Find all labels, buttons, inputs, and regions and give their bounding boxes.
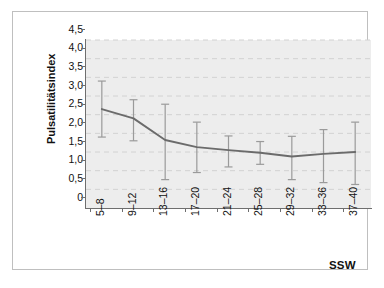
x-tick-mark xyxy=(122,208,123,212)
y-tick-label: 0 xyxy=(57,192,83,203)
x-tick-mark xyxy=(217,208,218,212)
error-bar xyxy=(288,136,296,179)
error-bar xyxy=(351,122,359,184)
x-tick-label: 37–40 xyxy=(348,187,359,216)
y-tick-label: 4,5 xyxy=(57,24,83,35)
x-tick-mark xyxy=(153,208,154,212)
y-tick-label: 3,0 xyxy=(57,80,83,91)
x-tick-label: 5–8 xyxy=(95,198,106,216)
error-bar xyxy=(225,136,233,167)
x-tick-label: 25–28 xyxy=(253,187,264,216)
y-tick-mark xyxy=(81,66,85,67)
y-tick-label: 3,5 xyxy=(57,61,83,72)
series-line xyxy=(102,109,355,156)
figure-canvas: 00,51,01,52,02,53,03,54,04,5 5–89–1213–1… xyxy=(0,0,384,288)
x-tick-mark xyxy=(343,208,344,212)
x-tick-mark xyxy=(248,208,249,212)
x-tick-label: 9–12 xyxy=(127,193,138,216)
error-bar xyxy=(320,130,328,183)
plot-panel xyxy=(86,40,371,208)
y-tick-mark xyxy=(81,160,85,161)
y-tick-mark xyxy=(81,48,85,49)
y-tick-label: 2,0 xyxy=(57,117,83,128)
y-tick-label: 4,0 xyxy=(57,42,83,53)
x-axis-title: SSW xyxy=(329,259,356,271)
y-tick-mark xyxy=(81,85,85,86)
y-tick-mark xyxy=(81,197,85,198)
x-tick-mark xyxy=(312,208,313,212)
x-tick-label: 33–36 xyxy=(317,187,328,216)
data-layer xyxy=(86,40,371,208)
y-tick-label: 1,0 xyxy=(57,154,83,165)
y-axis-title-text: Pulsatilitätsindex xyxy=(45,130,57,144)
x-tick-mark xyxy=(90,208,91,212)
y-tick-label: 0,5 xyxy=(57,173,83,184)
x-tick-label: 13–16 xyxy=(158,187,169,216)
y-tick-mark xyxy=(81,141,85,142)
y-tick-mark xyxy=(81,104,85,105)
error-bar xyxy=(161,104,169,179)
y-axis-title: Pulsatilitätsindex xyxy=(43,40,57,180)
y-tick-label: 2,5 xyxy=(57,98,83,109)
x-tick-mark xyxy=(280,208,281,212)
y-tick-mark xyxy=(81,178,85,179)
x-tick-mark xyxy=(185,208,186,212)
y-axis-line xyxy=(85,39,86,209)
y-tick-mark xyxy=(81,29,85,30)
x-tick-label: 17–20 xyxy=(190,187,201,216)
y-tick-mark xyxy=(81,122,85,123)
y-tick-label: 1,5 xyxy=(57,136,83,147)
x-tick-label: 21–24 xyxy=(222,187,233,216)
x-tick-label: 29–32 xyxy=(285,187,296,216)
figure-frame: 00,51,01,52,02,53,03,54,04,5 5–89–1213–1… xyxy=(12,11,368,270)
